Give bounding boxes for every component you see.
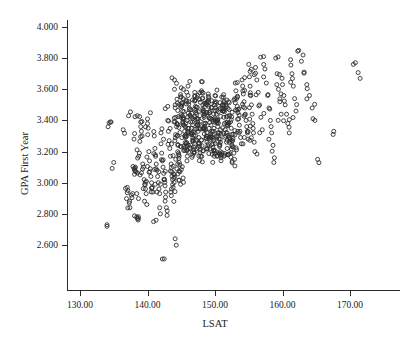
data-point xyxy=(178,131,182,135)
data-point xyxy=(106,125,110,129)
data-point xyxy=(188,79,192,83)
data-point xyxy=(243,76,247,80)
data-point xyxy=(282,119,286,123)
data-point xyxy=(240,78,244,82)
data-point xyxy=(289,58,293,62)
x-axis-title: LSAT xyxy=(145,318,285,329)
data-point xyxy=(290,72,294,76)
data-point xyxy=(262,75,266,79)
data-point xyxy=(173,237,177,241)
data-point xyxy=(310,106,314,110)
data-point xyxy=(299,59,303,63)
data-point xyxy=(200,138,204,142)
data-point xyxy=(159,142,163,146)
data-point xyxy=(247,75,251,79)
data-point xyxy=(174,243,178,247)
y-axis-tick-label: 2.600 xyxy=(0,240,58,250)
data-point xyxy=(291,116,295,120)
data-point xyxy=(139,129,143,133)
scatter-plot-figure: ··· 2.6002.8003.0003.2003.4003.6003.8004… xyxy=(0,0,415,341)
data-point xyxy=(270,149,274,153)
data-point xyxy=(279,112,283,116)
data-point xyxy=(282,99,286,103)
x-axis-tick-label: 130.00 xyxy=(67,300,93,310)
data-point xyxy=(269,125,273,129)
data-point xyxy=(225,146,229,150)
data-point xyxy=(270,131,274,135)
data-point xyxy=(215,88,219,92)
data-point xyxy=(185,154,189,158)
data-point xyxy=(175,81,179,85)
data-point xyxy=(289,63,293,67)
data-point xyxy=(165,213,169,217)
data-point xyxy=(287,131,291,135)
data-point xyxy=(248,117,252,121)
data-point xyxy=(129,110,133,114)
data-point xyxy=(285,112,289,116)
data-point xyxy=(132,137,136,141)
data-point xyxy=(163,107,167,111)
data-point xyxy=(291,84,295,88)
data-point xyxy=(172,199,176,203)
data-point xyxy=(123,131,127,135)
data-point xyxy=(146,117,150,121)
data-point xyxy=(166,104,170,108)
data-point xyxy=(264,81,268,85)
data-point xyxy=(241,84,245,88)
data-point xyxy=(145,155,149,159)
data-point xyxy=(144,192,148,196)
x-axis-tick-label: 160.00 xyxy=(269,300,295,310)
data-point xyxy=(162,137,166,141)
data-point xyxy=(160,127,164,131)
data-point xyxy=(135,192,139,196)
data-point xyxy=(154,162,158,166)
data-point xyxy=(267,137,271,141)
data-points-group xyxy=(105,48,362,261)
data-point xyxy=(237,123,241,127)
data-point xyxy=(262,111,266,115)
y-axis-tick-label: 3.800 xyxy=(0,53,58,63)
data-point xyxy=(146,164,150,168)
data-point xyxy=(268,118,272,122)
data-point xyxy=(255,78,259,82)
data-point xyxy=(207,126,211,130)
data-point xyxy=(262,62,266,66)
data-point xyxy=(110,166,114,170)
data-point xyxy=(181,176,185,180)
x-axis-ticks xyxy=(81,291,351,297)
data-point xyxy=(289,80,293,84)
y-axis-title: GPA First Year xyxy=(19,104,30,224)
data-point xyxy=(258,131,262,135)
data-point xyxy=(127,114,131,118)
data-point xyxy=(247,62,251,66)
data-point xyxy=(138,139,142,143)
data-point xyxy=(276,87,280,91)
data-point xyxy=(139,125,143,129)
data-point xyxy=(305,83,309,87)
data-point xyxy=(294,109,298,113)
data-point xyxy=(136,197,140,201)
data-point xyxy=(252,140,256,144)
data-point xyxy=(233,164,237,168)
data-point xyxy=(287,125,291,129)
data-point xyxy=(254,65,258,69)
y-axis-tick-label: 3.600 xyxy=(0,84,58,94)
data-point xyxy=(248,84,252,88)
data-point xyxy=(158,212,162,216)
data-point xyxy=(251,126,255,130)
data-point xyxy=(295,103,299,107)
data-point xyxy=(251,122,255,126)
data-point xyxy=(152,130,156,134)
data-point xyxy=(275,83,279,87)
data-point xyxy=(186,84,190,88)
plot-canvas xyxy=(0,0,415,341)
data-point xyxy=(313,102,317,106)
y-axis-tick-label: 4.000 xyxy=(0,22,58,32)
data-point xyxy=(159,131,163,135)
data-point xyxy=(148,159,152,163)
data-point xyxy=(358,76,362,80)
data-point xyxy=(163,199,167,203)
data-point xyxy=(135,148,139,152)
data-point xyxy=(278,97,282,101)
x-axis-tick-label: 170.00 xyxy=(337,300,363,310)
